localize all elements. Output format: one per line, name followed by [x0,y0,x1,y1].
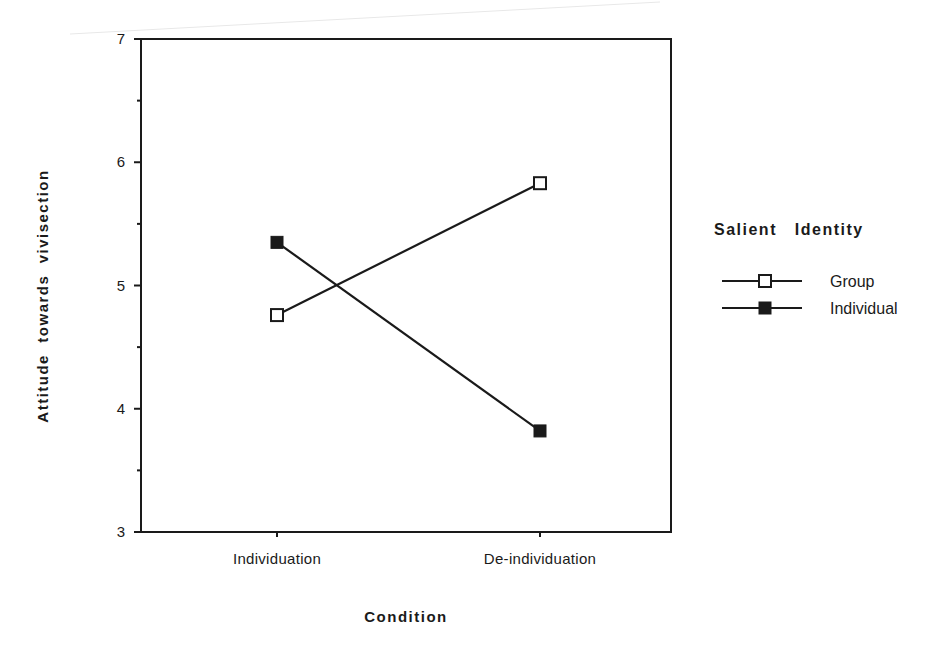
legend-title: Salient Identity [714,221,864,238]
legend: Salient Identity Group Individual [714,221,898,317]
plot-frame [141,39,671,532]
chart: 34567 IndividuationDe-individuation Cond… [0,0,935,650]
y-tick-label: 7 [117,30,125,47]
series-line-group [277,183,540,315]
filled-square-marker-icon [534,425,546,437]
y-tick-label: 5 [117,277,125,294]
y-tick-label: 6 [117,153,125,170]
open-square-marker-icon [759,275,771,287]
series-line-individual [277,242,540,431]
x-tick-label: Individuation [233,550,321,567]
x-axis: IndividuationDe-individuation [233,532,596,567]
filled-square-marker-icon [271,236,283,248]
legend-label-individual: Individual [830,300,898,317]
legend-label-group: Group [830,273,875,290]
open-square-marker-icon [534,177,546,189]
open-square-marker-icon [271,309,283,321]
y-tick-label: 4 [117,400,125,417]
scan-artifact [70,2,660,34]
y-axis: 34567 [117,30,141,540]
y-axis-title: Attitude towards vivisection [34,169,51,422]
x-axis-title: Condition [364,608,447,625]
y-tick-label: 3 [117,523,125,540]
filled-square-marker-icon [759,302,771,314]
plot-series [271,177,546,437]
x-tick-label: De-individuation [484,550,596,567]
legend-item-individual: Individual [722,300,898,317]
legend-item-group: Group [722,273,875,290]
